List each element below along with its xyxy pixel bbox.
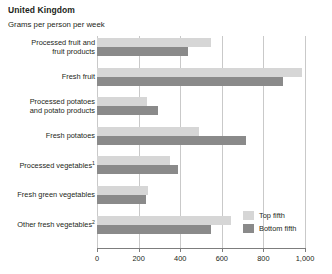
category-label: Fresh fruit (0, 72, 95, 81)
bar-group: Processed potatoesand potato products (0, 97, 332, 115)
x-axis-line (97, 248, 305, 249)
category-label: Fresh potatoes (0, 131, 95, 140)
x-axis-tick-label: 400 (174, 254, 186, 263)
chart-subtitle: Grams per person per week (8, 20, 105, 29)
bar-top-fifth (97, 127, 199, 136)
bar-top-fifth (97, 186, 148, 195)
bar-group: Fresh green vegetables (0, 186, 332, 204)
bar-top-fifth (97, 97, 147, 106)
x-axis-tick-label: 0 (95, 254, 99, 263)
x-axis-tick (263, 248, 264, 252)
bar-top-fifth (97, 216, 231, 225)
x-axis-tick-label: 200 (132, 254, 144, 263)
x-axis-tick-label: 600 (216, 254, 228, 263)
bar-top-fifth (97, 38, 211, 47)
bar-bottom-fifth (97, 165, 178, 174)
category-label: Fresh green vegetables (0, 190, 95, 199)
x-axis-tick (97, 248, 98, 252)
bar-bottom-fifth (97, 225, 211, 234)
legend-swatch-icon (243, 211, 254, 220)
chart-legend: Top fifth Bottom fifth (243, 210, 296, 236)
category-label: Processed vegetables1 (0, 161, 95, 170)
bar-bottom-fifth (97, 77, 283, 86)
x-axis-tick-label: 1,000 (296, 254, 315, 263)
category-label: Processed potatoesand potato products (0, 97, 95, 116)
x-axis-tick (305, 248, 306, 252)
bar-top-fifth (97, 156, 170, 165)
bar-group: Fresh fruit (0, 68, 332, 86)
legend-item-bottom-fifth: Bottom fifth (243, 223, 296, 234)
bar-bottom-fifth (97, 106, 158, 115)
bar-group: Fresh potatoes (0, 127, 332, 145)
bar-bottom-fifth (97, 47, 188, 56)
legend-label: Bottom fifth (259, 224, 296, 233)
chart-page: United Kingdom Grams per person per week… (0, 0, 332, 274)
legend-swatch-icon (243, 224, 254, 233)
bar-group: Processed vegetables1 (0, 156, 332, 174)
x-axis-tick (222, 248, 223, 252)
x-axis-tick (139, 248, 140, 252)
x-axis-tick-label: 800 (257, 254, 269, 263)
page-title: United Kingdom (8, 5, 75, 15)
bar-top-fifth (97, 68, 302, 77)
legend-item-top-fifth: Top fifth (243, 210, 296, 221)
category-label: Processed fruit andfruit products (0, 38, 95, 57)
legend-label: Top fifth (259, 211, 285, 220)
category-label: Other fresh vegetables2 (0, 220, 95, 229)
bar-group: Processed fruit andfruit products (0, 38, 332, 56)
x-axis-tick (180, 248, 181, 252)
bar-bottom-fifth (97, 195, 146, 204)
bar-bottom-fifth (97, 136, 246, 145)
